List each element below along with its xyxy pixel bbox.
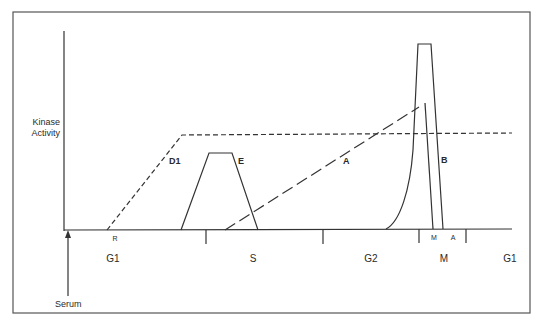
y-axis-label-line2: Activity <box>31 128 60 138</box>
phase-label-g1: G1 <box>106 253 120 264</box>
phase-label-s: S <box>250 253 257 264</box>
figure-frame <box>13 12 530 313</box>
mitosis-sublabel: M <box>431 234 437 241</box>
curve-a-label: A <box>343 156 350 166</box>
curve-e <box>181 153 258 230</box>
curve-e-label: E <box>238 156 244 166</box>
curve-d1-label: D1 <box>169 156 181 166</box>
serum-label: Serum <box>55 299 82 309</box>
phase-label-g1-next: G1 <box>503 253 517 264</box>
phase-label-g2: G2 <box>364 253 378 264</box>
curve-d1 <box>107 133 512 230</box>
curve-b <box>386 44 443 229</box>
restriction-point-label: R <box>112 235 117 242</box>
curve-a-rise <box>225 107 419 230</box>
anaphase-sublabel: A <box>451 234 456 241</box>
x-axis <box>64 229 512 230</box>
y-axis-label-line1: Kinase <box>32 117 60 127</box>
curve-a-drop <box>425 103 433 229</box>
curve-b-label: B <box>441 155 448 165</box>
phase-label-m: M <box>440 253 448 264</box>
cell-cycle-kinase-diagram: Kinase Activity Serum D1 E A B R M A G1 … <box>0 0 543 331</box>
serum-arrow-icon <box>65 230 71 238</box>
